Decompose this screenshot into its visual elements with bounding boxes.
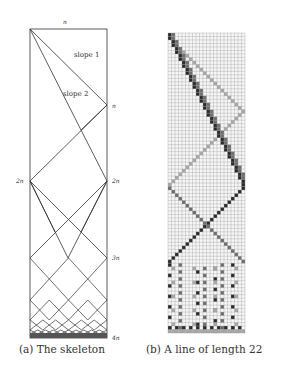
label-right-2n: 2n (111, 177, 120, 184)
figure-canvas: n n 2n 2n 3n 4n slope 1 slope 2 (0, 0, 283, 379)
label-top-n: n (63, 18, 67, 25)
label-right-4n: 4n (111, 334, 120, 341)
skeleton-base-bar (30, 333, 107, 338)
label-right-3n: 3n (112, 254, 120, 261)
caption-line-length: (b) A line of length 22 (146, 343, 262, 355)
skeleton-diagram (30, 29, 107, 338)
label-right-n: n (112, 102, 116, 109)
label-left-2n: 2n (15, 177, 24, 184)
skeleton-frame (30, 29, 107, 338)
skeleton-dense-lines (30, 258, 107, 334)
label-slope-1: slope 1 (74, 51, 99, 59)
label-slope-2: slope 2 (63, 90, 88, 98)
caption-skeleton: (a) The skeleton (19, 343, 105, 355)
